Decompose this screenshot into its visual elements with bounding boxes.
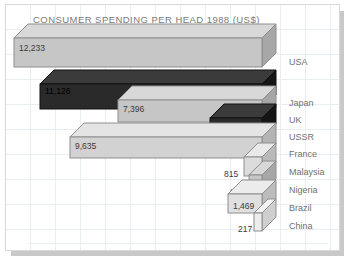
bar-label-brazil: Brazil (289, 203, 312, 213)
bar-value-japan: 11,126 (45, 86, 70, 96)
bar-china-3d (254, 199, 276, 231)
bar-label-malaysia: Malaysia (289, 167, 325, 177)
chart-image: CONSUMER SPENDING PER HEAD 1988 (US$) 12… (0, 0, 353, 276)
bar-value-china: 217 (238, 224, 252, 234)
bar-label-uk: UK (289, 115, 302, 125)
bar-value-malaysia: 815 (224, 169, 238, 179)
bar-label-ussr: USSR (289, 132, 314, 142)
bar-value-brazil: 1,469 (233, 201, 254, 211)
bar-value-usa: 12,233 (19, 43, 45, 53)
bar-usa (14, 38, 262, 67)
bar-france (70, 137, 262, 158)
plot-area: 12,233 USA 11,126 Japan 7,396 (6, 5, 339, 250)
bar-value-france: 9,635 (75, 141, 96, 151)
bar-usa-3d (14, 24, 276, 67)
bar-label-france: France (289, 149, 317, 159)
bar-label-usa: USA (289, 57, 308, 67)
bar-china (254, 213, 262, 231)
bar-value-uk: 7,396 (123, 104, 144, 114)
chart-panel: CONSUMER SPENDING PER HEAD 1988 (US$) 12… (5, 4, 340, 251)
bar-label-china: China (289, 221, 313, 231)
bar-label-japan: Japan (289, 98, 314, 108)
bar-label-nigeria: Nigeria (289, 185, 318, 195)
